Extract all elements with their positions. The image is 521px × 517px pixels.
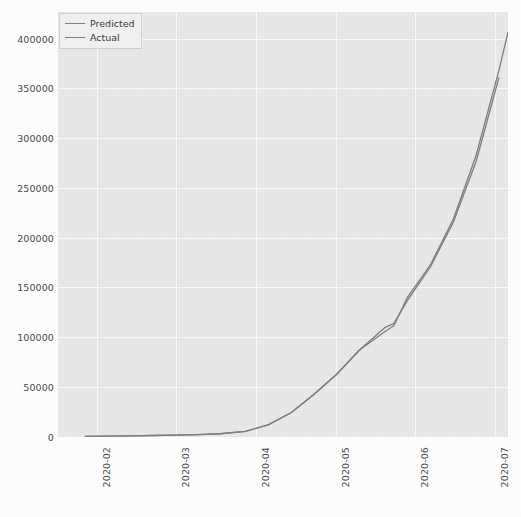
x-tick-label: 2020-03 [180,447,191,487]
x-tick-label: 2020-04 [260,447,271,487]
legend-label: Predicted [90,18,135,29]
x-axis-labels: 2020-02 2020-03 2020-04 2020-05 2020-06 … [0,0,521,517]
legend-item-predicted: Predicted [65,17,135,30]
x-tick-label: 2020-02 [101,447,112,487]
legend-line-icon [65,37,85,38]
legend-line-icon [65,23,85,24]
chart-figure: 400000 350000 300000 250000 200000 15000… [0,0,521,517]
legend-item-actual: Actual [65,31,135,44]
x-tick-label: 2020-07 [499,447,510,487]
x-tick-label: 2020-06 [419,447,430,487]
legend-label: Actual [90,32,120,43]
x-tick-label: 2020-05 [340,447,351,487]
chart-legend: Predicted Actual [59,13,142,49]
